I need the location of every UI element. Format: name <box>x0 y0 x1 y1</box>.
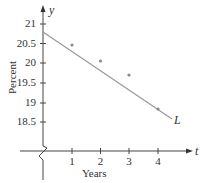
x-tick-label: 1 <box>67 156 77 167</box>
x-tick-label: 4 <box>153 156 163 167</box>
data-point <box>127 73 130 76</box>
y-tick-label: 18.5 <box>8 116 36 127</box>
axis-break-icon <box>39 146 47 160</box>
x-axis-title: Years <box>82 168 107 179</box>
y-tick-label: 20.5 <box>8 38 36 49</box>
data-points <box>70 43 159 110</box>
x-tick-label: 2 <box>96 156 106 167</box>
data-point <box>99 59 102 62</box>
y-axis-title: Percent <box>7 56 18 100</box>
x-tick-label: 3 <box>124 156 134 167</box>
y-axis-variable: y <box>49 4 54 16</box>
x-axis-arrow <box>186 149 193 154</box>
line-label: L <box>174 114 181 126</box>
x-axis-variable: t <box>195 145 198 157</box>
y-axis-arrow <box>41 5 46 12</box>
data-point <box>156 107 159 110</box>
data-point <box>70 43 73 46</box>
y-tick-label: 21 <box>8 18 36 29</box>
trend-line-L <box>43 32 172 119</box>
